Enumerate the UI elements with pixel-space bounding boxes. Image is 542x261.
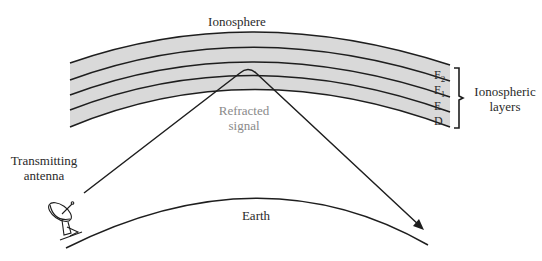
layer-d-label: D — [434, 114, 443, 128]
layers-bracket — [454, 68, 463, 128]
ionospheric-layers-label: Ionospheric — [474, 84, 536, 99]
antenna-label: Transmitting — [11, 153, 78, 168]
earth-label: Earth — [242, 208, 271, 223]
ionospheric-layers-label-line2: layers — [489, 99, 520, 114]
ionosphere-diagram: F2 F1 E D Ionospheric layers Ionosphere … — [0, 0, 542, 261]
antenna-label-line2: antenna — [24, 168, 65, 183]
earth-surface — [66, 198, 428, 248]
layer-e-label: E — [434, 99, 441, 113]
satellite-dish-icon — [45, 199, 82, 240]
refracted-signal-label-line2: signal — [228, 118, 259, 133]
ionosphere-label: Ionosphere — [208, 14, 266, 29]
refracted-signal-label: Refracted — [219, 103, 270, 118]
